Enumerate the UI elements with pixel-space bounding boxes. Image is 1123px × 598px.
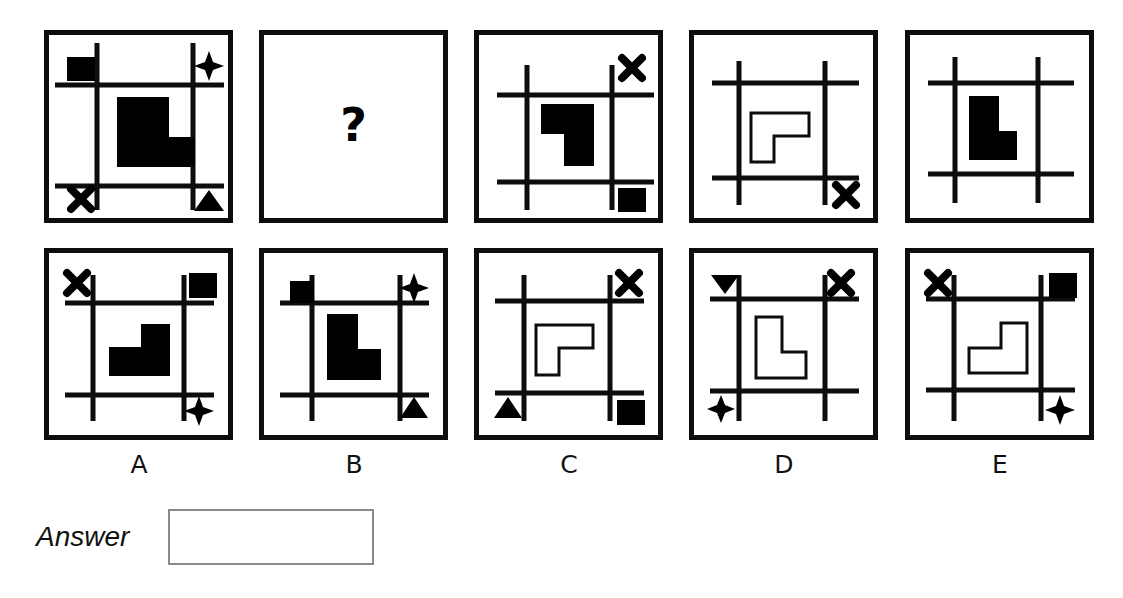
option-b-content — [264, 253, 443, 435]
option-label-b: B — [259, 452, 449, 477]
option-label-c: C — [474, 452, 664, 477]
answer-label: Answer — [36, 523, 129, 551]
panel-3-figure — [479, 35, 658, 218]
option-e-figure — [910, 253, 1089, 435]
panel-5-content — [910, 35, 1089, 218]
question-panel-4 — [689, 30, 878, 223]
option-d-content — [694, 253, 873, 435]
option-a-content — [49, 253, 228, 435]
answer-input[interactable] — [168, 509, 374, 565]
panel-4-figure — [694, 35, 873, 218]
option-b-figure — [264, 253, 443, 435]
option-d-figure — [694, 253, 873, 435]
question-panel-5 — [905, 30, 1094, 223]
option-panel-d[interactable] — [689, 248, 878, 440]
option-a-figure — [49, 253, 228, 435]
panel-3-content — [479, 35, 658, 218]
option-label-a: A — [44, 452, 234, 477]
question-panel-2: ? — [259, 30, 448, 223]
question-panel-3 — [474, 30, 663, 223]
panel-1-figure — [49, 35, 228, 218]
option-e-content — [910, 253, 1089, 435]
puzzle-root: ? — [0, 0, 1123, 598]
option-label-d: D — [689, 452, 879, 477]
option-panel-b[interactable] — [259, 248, 448, 440]
panel-4-content — [694, 35, 873, 218]
option-label-e: E — [905, 452, 1095, 477]
option-panel-c[interactable] — [474, 248, 663, 440]
option-panel-a[interactable] — [44, 248, 233, 440]
option-panel-e[interactable] — [905, 248, 1094, 440]
question-mark: ? — [264, 35, 443, 218]
panel-1-content — [49, 35, 228, 218]
option-c-figure — [479, 253, 658, 435]
panel-5-figure — [910, 35, 1089, 218]
option-c-content — [479, 253, 658, 435]
question-panel-1 — [44, 30, 233, 223]
